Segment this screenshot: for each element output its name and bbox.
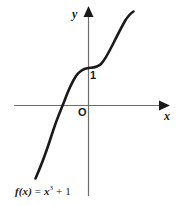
caption-equals: = [32, 185, 44, 197]
y-axis-arrowhead [84, 6, 94, 17]
function-caption: f(x) = x3 + 1 [15, 184, 71, 197]
y-intercept-label: 1 [90, 70, 96, 81]
graph-canvas [0, 0, 176, 206]
origin-label: O [78, 107, 87, 118]
cubic-curve [36, 12, 134, 179]
y-axis-label: y [72, 8, 77, 20]
x-axis-label: x [164, 110, 170, 122]
function-graph-figure: y x 1 O f(x) = x3 + 1 [0, 0, 176, 206]
caption-argument: (x) [19, 185, 32, 197]
caption-tail: + 1 [53, 185, 71, 197]
